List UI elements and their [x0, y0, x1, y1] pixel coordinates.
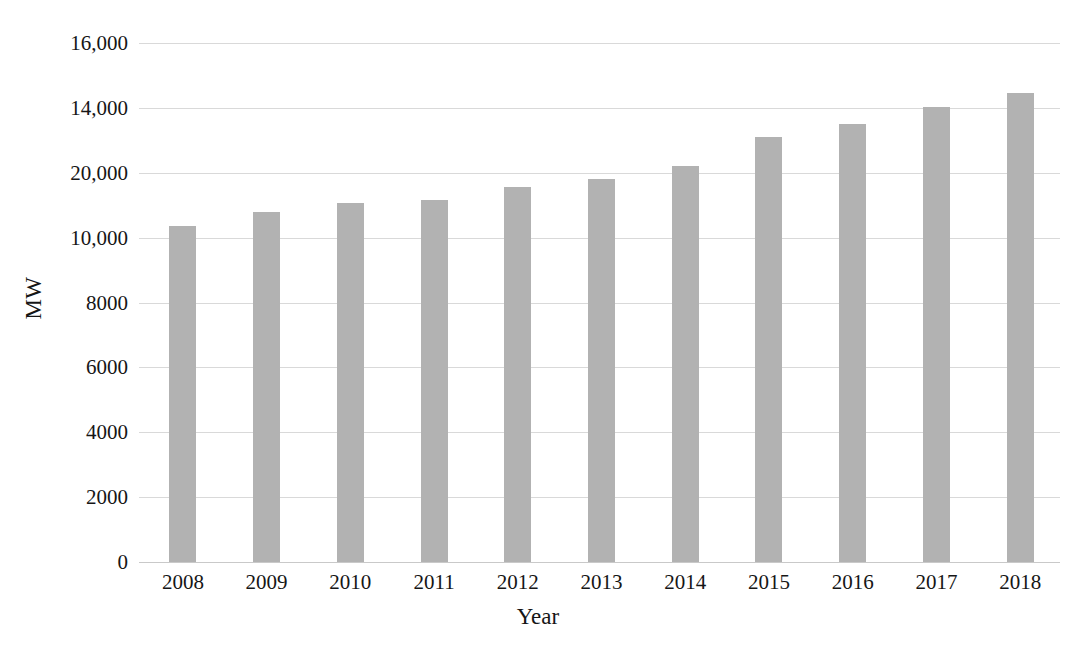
gridline: [139, 562, 1060, 563]
bar: [421, 200, 448, 562]
x-axis-tick-label: 2008: [138, 568, 228, 596]
x-axis-tick-label: 2010: [305, 568, 395, 596]
bar: [672, 166, 699, 562]
bar: [839, 124, 866, 562]
bar: [755, 137, 782, 562]
x-axis-tick-label: 2014: [640, 568, 730, 596]
bar: [1007, 93, 1034, 562]
y-axis-tick-label: 20,000: [0, 163, 128, 184]
x-axis-tick-label: 2012: [473, 568, 563, 596]
y-axis-tick-label: 14,000: [0, 98, 128, 119]
y-axis-tick-labels: 16,00014,00020,00010,0008000600040002000…: [0, 43, 128, 563]
bar-chart: MW 16,00014,00020,00010,0008000600040002…: [0, 0, 1076, 664]
bar: [588, 179, 615, 562]
x-axis-tick-labels: 2008200920102011201220132014201520162017…: [139, 568, 1060, 600]
bar: [253, 212, 280, 562]
plot-area: [139, 43, 1060, 562]
bar: [337, 203, 364, 562]
x-axis-title-label: Year: [517, 604, 559, 629]
x-axis-tick-label: 2013: [557, 568, 647, 596]
x-axis-tick-label: 2016: [808, 568, 898, 596]
x-axis-title: Year: [0, 604, 1076, 630]
bars: [139, 43, 1060, 562]
y-axis-tick-label: 0: [0, 552, 128, 573]
y-axis-tick-label: 6000: [0, 357, 128, 378]
x-axis-tick-label: 2015: [724, 568, 814, 596]
y-axis-tick-label: 4000: [0, 422, 128, 443]
bar: [504, 187, 531, 562]
y-axis-tick-label: 16,000: [0, 33, 128, 54]
bar: [169, 226, 196, 562]
y-axis-tick-label: 8000: [0, 293, 128, 314]
x-axis-tick-label: 2011: [389, 568, 479, 596]
x-axis-tick-label: 2017: [891, 568, 981, 596]
x-axis-tick-label: 2018: [975, 568, 1065, 596]
y-axis-tick-label: 10,000: [0, 228, 128, 249]
y-axis-tick-label: 2000: [0, 487, 128, 508]
x-axis-tick-label: 2009: [222, 568, 312, 596]
bar: [923, 107, 950, 562]
